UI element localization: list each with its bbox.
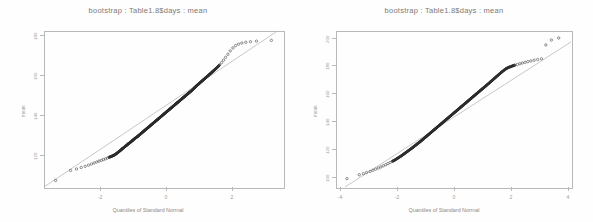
data-point xyxy=(377,167,379,169)
data-point xyxy=(237,43,239,45)
data-point xyxy=(229,50,231,52)
chart-panel-left: bootstrap : Table1.8$days : mean mean Qu… xyxy=(0,0,296,222)
qq-scatter-right xyxy=(296,0,592,222)
data-point xyxy=(533,59,535,61)
data-point xyxy=(545,44,547,46)
data-point xyxy=(550,39,552,41)
data-point xyxy=(93,162,95,164)
data-point xyxy=(222,59,224,61)
data-point xyxy=(527,60,529,62)
data-point xyxy=(380,166,382,168)
data-point xyxy=(346,177,348,179)
data-point xyxy=(255,40,257,42)
data-point xyxy=(90,163,92,165)
data-point xyxy=(358,174,360,176)
data-point xyxy=(540,58,542,60)
data-point xyxy=(519,63,521,65)
data-point xyxy=(382,165,384,167)
reference-line xyxy=(345,42,571,187)
data-point xyxy=(84,165,86,167)
data-point xyxy=(234,44,236,46)
data-point xyxy=(270,39,272,41)
data-point xyxy=(249,41,251,43)
data-point xyxy=(558,37,560,39)
data-point xyxy=(80,166,82,168)
data-point xyxy=(232,47,234,49)
data-point xyxy=(536,58,538,60)
data-point xyxy=(220,61,222,63)
data-point xyxy=(530,60,532,62)
data-point xyxy=(75,168,77,170)
data-point xyxy=(374,168,376,170)
data-point xyxy=(516,63,518,65)
data-point xyxy=(87,164,89,166)
data-point xyxy=(241,42,243,44)
qq-plot-figure: bootstrap : Table1.8$days : mean mean Qu… xyxy=(0,0,593,222)
data-point xyxy=(98,160,100,162)
data-point xyxy=(227,53,229,55)
data-point xyxy=(245,41,247,43)
data-point xyxy=(224,56,226,58)
reference-line xyxy=(44,31,277,187)
data-point xyxy=(96,161,98,163)
data-point xyxy=(521,62,523,64)
data-point xyxy=(524,61,526,63)
data-point xyxy=(362,172,364,174)
qq-scatter-left xyxy=(0,0,296,222)
chart-panel-right: bootstrap : Table1.8$days : mean mean Qu… xyxy=(296,0,592,222)
